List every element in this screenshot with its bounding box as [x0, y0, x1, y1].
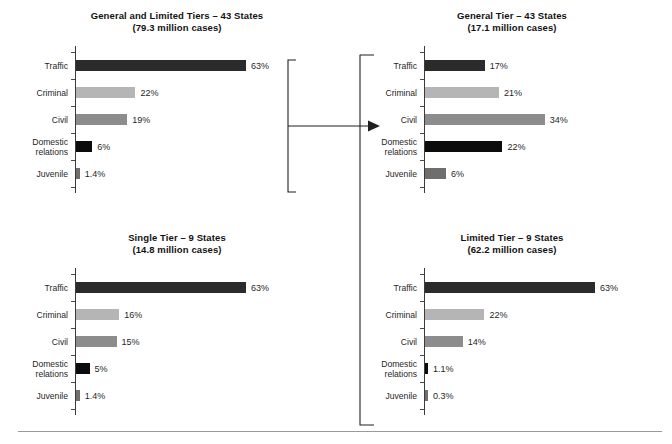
category-label: Civil — [18, 337, 68, 347]
bar-domestic — [76, 363, 90, 374]
bar-value-label: 6% — [97, 142, 110, 153]
axis-tick — [71, 106, 75, 107]
bar-value-label: 22% — [489, 310, 507, 321]
bar-traffic — [76, 60, 246, 71]
axis-tick — [420, 409, 424, 410]
bar-traffic — [76, 282, 246, 293]
bar-value-label: 17% — [490, 61, 508, 72]
axis-tick — [420, 301, 424, 302]
bar-value-label: 21% — [504, 88, 522, 99]
axis-tick — [420, 328, 424, 329]
bar-domestic — [76, 141, 92, 152]
axis-tick — [71, 133, 75, 134]
footer-divider-rule — [18, 431, 662, 432]
bar-value-label: 6% — [451, 169, 464, 180]
bar-criminal — [76, 309, 119, 320]
category-label: Juvenile — [356, 391, 417, 401]
plot-area: Traffic63%Criminal22%Civil19%Domestic re… — [18, 46, 336, 206]
panel-limited-tier: Limited Tier – 9 States (62.2 million ca… — [356, 228, 668, 428]
bar-juvenile — [76, 168, 80, 179]
axis-tick — [71, 301, 75, 302]
bar-value-label: 1.1% — [433, 364, 454, 375]
category-label: Criminal — [356, 88, 417, 98]
category-label: Domestic relations — [356, 137, 417, 157]
bar-traffic — [425, 60, 485, 71]
category-label: Domestic relations — [356, 359, 417, 379]
bar-value-label: 63% — [251, 283, 269, 294]
axis-tick — [420, 106, 424, 107]
category-label: Civil — [356, 115, 417, 125]
bar-value-label: 1.4% — [85, 391, 106, 402]
panel-title: Single Tier – 9 States — [18, 232, 336, 244]
bar-value-label: 63% — [600, 283, 618, 294]
bar-civil — [425, 114, 545, 125]
panel-subtitle: (62.2 million cases) — [356, 244, 668, 256]
panel-title: General Tier – 43 States — [356, 10, 668, 22]
axis-tick — [420, 160, 424, 161]
axis-tick — [71, 355, 75, 356]
category-label: Criminal — [18, 88, 68, 98]
category-label: Criminal — [18, 310, 68, 320]
bar-criminal — [425, 87, 499, 98]
panel-title: Limited Tier – 9 States — [356, 232, 668, 244]
bar-value-label: 14% — [468, 337, 486, 348]
axis-tick — [420, 79, 424, 80]
bar-value-label: 0.3% — [433, 391, 454, 402]
bar-value-label: 16% — [124, 310, 142, 321]
bar-juvenile — [425, 390, 428, 401]
category-label: Criminal — [356, 310, 417, 320]
bar-criminal — [425, 309, 484, 320]
bar-criminal — [76, 87, 135, 98]
axis-tick — [71, 328, 75, 329]
category-label: Civil — [18, 115, 68, 125]
axis-tick — [71, 274, 75, 275]
panel-single-tier: Single Tier – 9 States (14.8 million cas… — [18, 228, 336, 428]
plot-area: Traffic63%Criminal22%Civil14%Domestic re… — [356, 268, 668, 428]
bar-domestic — [425, 141, 502, 152]
bar-juvenile — [425, 168, 446, 179]
panel-title: General and Limited Tiers – 43 States — [18, 10, 336, 22]
panel-subtitle: (79.3 million cases) — [18, 22, 336, 34]
panel-subtitle: (14.8 million cases) — [18, 244, 336, 256]
axis-tick — [71, 382, 75, 383]
bar-value-label: 1.4% — [85, 169, 106, 180]
panel-subtitle: (17.1 million cases) — [356, 22, 668, 34]
category-label: Juvenile — [18, 391, 68, 401]
bar-value-label: 19% — [132, 115, 150, 126]
axis-tick — [420, 274, 424, 275]
axis-tick — [420, 382, 424, 383]
bar-value-label: 22% — [507, 142, 525, 153]
axis-tick — [71, 187, 75, 188]
panel-general-and-limited-tiers: General and Limited Tiers – 43 States (7… — [18, 6, 336, 218]
four-panel-bar-chart-figure: General and Limited Tiers – 43 States (7… — [0, 0, 672, 444]
category-label: Juvenile — [356, 169, 417, 179]
category-label: Traffic — [356, 61, 417, 71]
plot-area: Traffic17%Criminal21%Civil34%Domestic re… — [356, 46, 668, 206]
bar-civil — [425, 336, 463, 347]
category-label: Domestic relations — [18, 359, 68, 379]
axis-tick — [420, 187, 424, 188]
axis-tick — [71, 52, 75, 53]
bar-value-label: 63% — [251, 61, 269, 72]
bar-value-label: 5% — [95, 364, 108, 375]
bar-traffic — [425, 282, 595, 293]
axis-tick — [71, 160, 75, 161]
bar-domestic — [425, 363, 428, 374]
axis-tick — [420, 133, 424, 134]
category-label: Traffic — [18, 283, 68, 293]
category-label: Traffic — [18, 61, 68, 71]
bar-value-label: 34% — [550, 115, 568, 126]
bar-juvenile — [76, 390, 80, 401]
axis-tick — [420, 52, 424, 53]
bar-civil — [76, 336, 117, 347]
axis-tick — [420, 355, 424, 356]
category-label: Juvenile — [18, 169, 68, 179]
panel-general-tier: General Tier – 43 States (17.1 million c… — [356, 6, 668, 218]
category-label: Traffic — [356, 283, 417, 293]
axis-tick — [71, 79, 75, 80]
bar-value-label: 15% — [122, 337, 140, 348]
category-label: Civil — [356, 337, 417, 347]
axis-tick — [71, 409, 75, 410]
bar-civil — [76, 114, 127, 125]
bar-value-label: 22% — [140, 88, 158, 99]
